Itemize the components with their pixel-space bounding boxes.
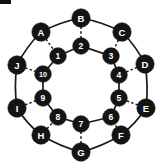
inner-node-label-4: 4	[117, 70, 122, 80]
outer-node-label-d: D	[142, 59, 149, 70]
spoke-edge	[25, 101, 36, 105]
outer-node-label-c: C	[119, 27, 126, 38]
spoke-edge	[47, 123, 53, 129]
spoke-edge	[46, 39, 53, 50]
outer-node-label-e: E	[143, 103, 149, 114]
spoke-edge	[126, 67, 137, 72]
outer-node-label-f: F	[118, 130, 124, 141]
graph-diagram: 12345678910 ABCDEFGHIJ	[0, 0, 163, 166]
inner-edge	[87, 48, 104, 54]
outer-node-label-h: H	[38, 130, 45, 141]
inner-node-label-10: 10	[39, 70, 47, 79]
outer-node-label-i: I	[16, 103, 19, 114]
inner-node-label-3: 3	[109, 51, 114, 61]
spoke-edge	[25, 68, 35, 72]
diagram-canvas: 12345678910 ABCDEFGHIJ	[0, 0, 163, 166]
inner-node-label-9: 9	[41, 93, 46, 103]
inner-node-label-2: 2	[79, 41, 84, 51]
inner-node-label-5: 5	[117, 93, 122, 103]
inner-node-label-8: 8	[56, 112, 61, 122]
outer-node-label-j: J	[14, 60, 19, 71]
inner-ring-nodes: 12345678910	[35, 38, 128, 133]
outer-node-label-a: A	[38, 27, 45, 38]
inner-node-label-1: 1	[56, 51, 61, 61]
spoke-edge	[114, 40, 118, 49]
inner-node-label-6: 6	[109, 112, 114, 122]
inner-edge	[88, 119, 105, 123]
outer-node-label-b: B	[78, 13, 85, 24]
spoke-edge	[126, 101, 138, 105]
outer-node-label-g: G	[77, 147, 84, 158]
inner-node-label-7: 7	[79, 119, 84, 129]
